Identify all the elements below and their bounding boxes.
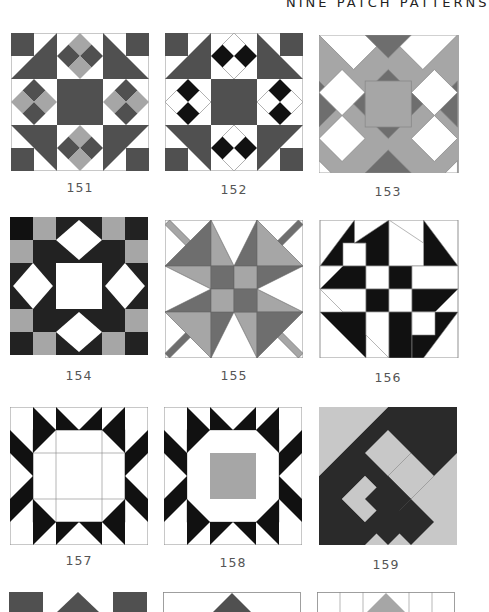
quilt-block-161	[163, 592, 301, 612]
page-header: NINE PATCH PATTERNS	[286, 0, 489, 10]
block-number: 151	[11, 180, 149, 195]
block-number: 152	[165, 182, 303, 197]
quilt-block-155	[165, 220, 303, 358]
quilt-block-159	[317, 407, 459, 545]
block-number: 156	[319, 370, 457, 385]
block-number: 154	[10, 368, 148, 383]
block-number: 159	[317, 557, 455, 572]
quilt-block-158	[164, 407, 302, 545]
block-number: 153	[319, 184, 457, 199]
quilt-block-153	[319, 35, 459, 173]
quilt-block-152	[165, 33, 303, 171]
quilt-block-154	[10, 217, 148, 355]
quilt-block-160	[9, 592, 147, 612]
quilt-block-157	[10, 407, 148, 545]
quilt-block-156	[319, 220, 459, 358]
block-number: 158	[164, 555, 302, 570]
block-number: 157	[10, 553, 148, 568]
quilt-block-151	[11, 33, 149, 171]
quilt-block-162	[317, 592, 455, 612]
block-number: 155	[165, 368, 303, 383]
